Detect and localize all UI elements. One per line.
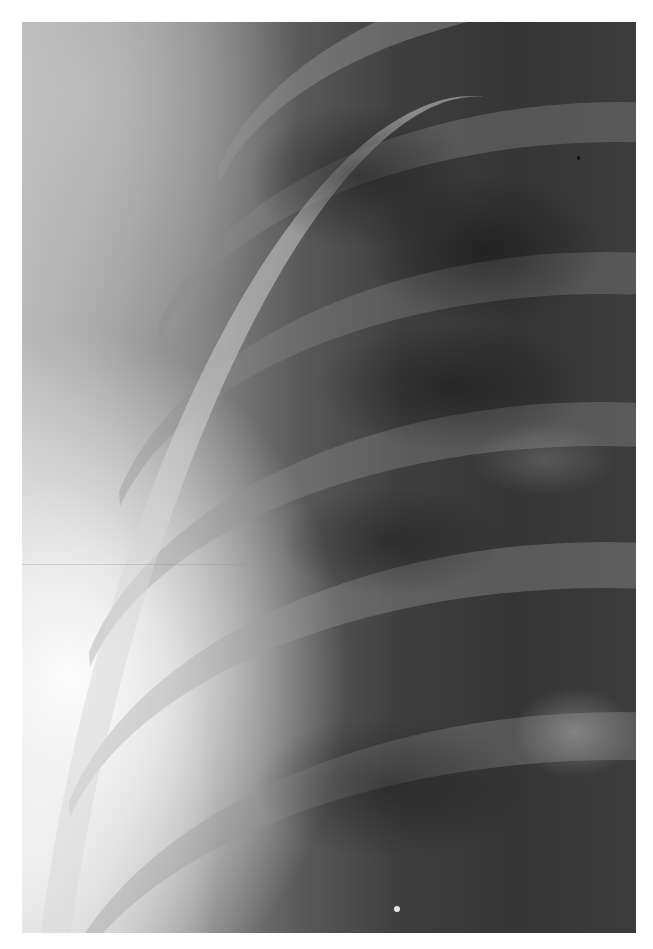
xray-image — [22, 22, 636, 933]
lung-markings — [22, 22, 636, 933]
film-crease — [22, 564, 252, 565]
bright-dot — [394, 906, 400, 912]
dark-speck — [577, 156, 580, 160]
